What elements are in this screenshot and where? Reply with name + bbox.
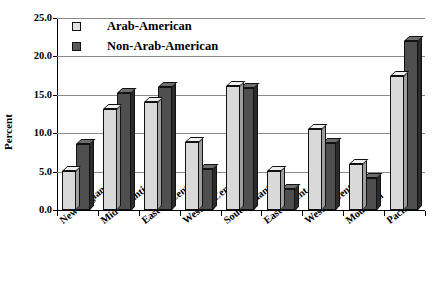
legend-swatch-icon [72, 22, 81, 31]
bar [267, 171, 281, 210]
bar-side-face [199, 137, 203, 210]
bar-front-face [267, 171, 281, 210]
bar-front-face [308, 129, 322, 210]
y-tick-label: 20.0 [14, 51, 52, 62]
legend-item-label: Non-Arab-American [107, 39, 218, 54]
bar-side-face [281, 166, 285, 210]
y-tick-label-text: 10.0 [18, 128, 52, 139]
y-tick-label: 15.0 [14, 90, 52, 101]
bar [308, 129, 322, 210]
bar [226, 86, 240, 210]
y-tick-label-text: 25.0 [18, 13, 52, 24]
bar [103, 109, 117, 210]
bar [185, 142, 199, 210]
bar-side-face [90, 139, 94, 210]
bar-side-face [404, 71, 408, 210]
bar-front-face [62, 171, 76, 210]
bar-side-face [322, 124, 326, 210]
x-tick-mark [425, 211, 426, 216]
bar-front-face [185, 142, 199, 210]
y-tick-label: 0.0 [14, 205, 52, 216]
bar [144, 102, 158, 210]
legend-item-non-arab-american: Non-Arab-American [72, 37, 218, 55]
y-tick-label: 25.0 [14, 13, 52, 24]
bar-front-face [103, 109, 117, 210]
bar-chart: Percent 0.05.010.015.020.025.0 New Engla… [0, 0, 446, 302]
bar-front-face [144, 102, 158, 210]
bar-side-face [377, 173, 381, 210]
y-tick-label: 10.0 [14, 128, 52, 139]
bar-side-face [117, 104, 121, 210]
bar-side-face [76, 166, 80, 210]
bar-side-face [158, 97, 162, 210]
y-tick-label-text: 15.0 [18, 90, 52, 101]
legend-item-label: Arab-American [107, 19, 192, 34]
legend-item-arab-american: Arab-American [72, 17, 192, 35]
y-tick-label-text: 0.0 [18, 205, 52, 216]
chart-legend: Arab-American Non-Arab-American [72, 17, 262, 57]
bar-front-face [390, 76, 404, 210]
bar-side-face [131, 88, 135, 210]
bar-side-face [240, 82, 244, 210]
y-tick-label-text: 20.0 [18, 51, 52, 62]
bar-side-face [418, 36, 422, 210]
bar [349, 164, 363, 210]
bar-side-face [172, 82, 176, 210]
legend-swatch-icon [72, 42, 81, 51]
y-tick-label: 5.0 [14, 167, 52, 178]
bar-side-face [213, 165, 217, 210]
bar-front-face [349, 164, 363, 210]
bar-front-face [226, 86, 240, 210]
bar [390, 76, 404, 210]
bar [62, 171, 76, 210]
bar-side-face [254, 83, 258, 210]
bar-side-face [336, 138, 340, 210]
bar-side-face [363, 159, 367, 210]
y-tick-label-text: 5.0 [18, 167, 52, 178]
